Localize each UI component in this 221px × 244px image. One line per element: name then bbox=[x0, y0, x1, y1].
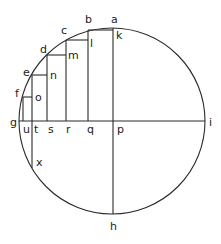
geometry-diagram: abcdefgutsrqpihklmnox bbox=[0, 0, 221, 244]
label-c: c bbox=[61, 24, 67, 37]
label-p: p bbox=[117, 123, 124, 136]
label-m: m bbox=[68, 49, 79, 62]
label-k: k bbox=[116, 29, 123, 42]
label-e: e bbox=[23, 66, 30, 79]
label-g: g bbox=[10, 116, 17, 129]
label-b: b bbox=[85, 13, 92, 26]
label-l: l bbox=[90, 37, 93, 50]
label-r: r bbox=[66, 123, 71, 136]
label-u: u bbox=[23, 123, 30, 136]
label-n: n bbox=[50, 69, 57, 82]
label-o: o bbox=[35, 91, 42, 104]
label-q: q bbox=[87, 123, 94, 136]
label-i: i bbox=[209, 116, 212, 129]
label-d: d bbox=[40, 43, 47, 56]
label-t: t bbox=[34, 123, 39, 136]
label-x: x bbox=[36, 156, 43, 169]
label-a: a bbox=[111, 13, 118, 26]
label-h: h bbox=[110, 220, 117, 233]
label-s: s bbox=[48, 123, 54, 136]
point-labels: abcdefgutsrqpihklmnox bbox=[10, 13, 212, 233]
label-f: f bbox=[15, 87, 20, 100]
